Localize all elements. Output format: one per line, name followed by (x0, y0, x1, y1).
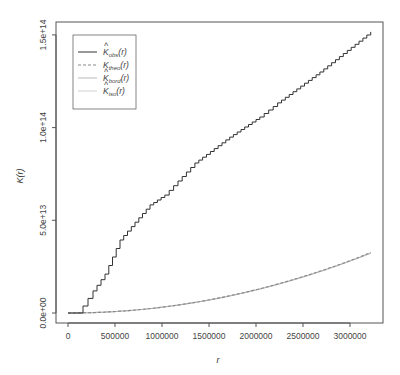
y-tick-label: 1.0e+14 (38, 112, 48, 143)
x-tick-label: 500000 (101, 331, 130, 341)
series-bord-line (68, 253, 371, 313)
series-iso-line (68, 253, 371, 313)
y-axis-title: K(r) (15, 169, 25, 184)
k-function-plot: 0500000100000015000002000000250000030000… (0, 0, 400, 375)
legend: Kobs(r)^Ktheo(r)Kbord(r)^Kiso(r)^ (73, 35, 136, 109)
y-tick-label: 5.0e+13 (38, 205, 48, 236)
x-axis: 0500000100000015000002000000250000030000… (66, 323, 367, 341)
x-tick-label: 1000000 (145, 331, 178, 341)
x-tick-label: 2000000 (239, 331, 272, 341)
series-theo-line (68, 253, 371, 313)
x-tick-label: 2500000 (286, 331, 319, 341)
y-tick-label: 0.0e+00 (38, 297, 48, 328)
x-tick-label: 0 (66, 331, 71, 341)
y-axis: 0.0e+005.0e+131.0e+141.5e+14 (38, 19, 56, 328)
y-tick-label: 1.5e+14 (38, 19, 48, 50)
x-tick-label: 3000000 (333, 331, 366, 341)
x-tick-label: 1500000 (192, 331, 225, 341)
x-axis-title: r (217, 355, 221, 365)
